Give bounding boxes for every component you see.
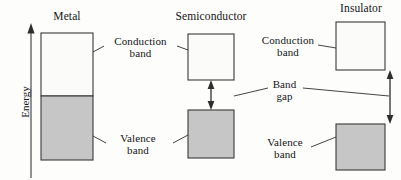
metal-band-block [41, 33, 93, 160]
metal-valence-band-box [41, 96, 93, 160]
semiconductor-valence-band-box [188, 110, 234, 158]
energy-band-diagram: Energy Metal Semiconductor Insulator Con… [0, 0, 401, 180]
label-valence-band-left: Valence band [104, 132, 172, 156]
leader-valence-left-to-semiconductor [173, 135, 188, 143]
semiconductor-gap-arrowhead-down [208, 101, 215, 110]
insulator-gap-arrowhead-down [387, 115, 394, 124]
leader-bandgap-to-insulator [303, 88, 389, 96]
material-title-insulator: Insulator [322, 2, 400, 14]
semiconductor-conduction-band-box [188, 34, 234, 80]
insulator-valence-band-box [336, 124, 385, 170]
material-title-metal: Metal [37, 10, 97, 22]
semiconductor-gap-arrowhead-up [208, 80, 215, 89]
label-conduction-band-left: Conduction band [103, 35, 178, 59]
insulator-band-gap-arrow [387, 70, 394, 124]
label-valence-band-right: Valence band [256, 136, 314, 160]
label-band-gap: Band gap [262, 78, 307, 102]
semiconductor-band-block [188, 34, 234, 158]
leader-valence-right-to-insulator [311, 137, 336, 147]
insulator-gap-arrowhead-up [387, 70, 394, 79]
leader-conduction-left-to-semiconductor [177, 46, 188, 50]
diagram-canvas [0, 0, 401, 180]
material-title-semiconductor: Semiconductor [155, 10, 267, 22]
semiconductor-band-gap-arrow [208, 80, 215, 110]
insulator-conduction-band-box [336, 22, 385, 70]
energy-axis-label: Energy [19, 72, 31, 132]
metal-conduction-band-box [41, 33, 93, 96]
energy-axis-arrowhead [27, 23, 34, 34]
label-conduction-band-right: Conduction band [255, 34, 321, 58]
